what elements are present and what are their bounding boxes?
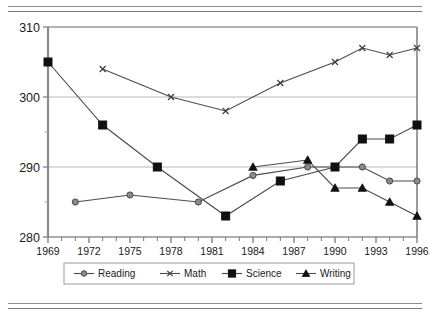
x-tick-label: 1993: [364, 245, 388, 257]
chart-container: 280290300310 196919721975197819811984198…: [0, 14, 430, 300]
x-axis-tick-labels: 1969197219751978198119841987199019931996: [36, 237, 429, 257]
legend-item-science[interactable]: Science: [222, 268, 282, 279]
data-point-marker: [44, 58, 52, 66]
data-point-marker: [99, 121, 107, 129]
series-line: [103, 48, 417, 111]
data-point-marker: [387, 178, 393, 184]
data-point-marker: [332, 59, 338, 65]
data-point-marker: [331, 163, 339, 171]
figure-page: 280290300310 196919721975197819811984198…: [0, 0, 430, 318]
data-point-marker: [222, 212, 230, 220]
chart-legend: ReadingMathScienceWriting: [64, 263, 354, 284]
series-math: [100, 45, 420, 114]
series-reading: [72, 164, 420, 205]
x-tick-label: 1981: [200, 245, 224, 257]
series-science: [44, 58, 421, 220]
top-divider-rule: [8, 6, 422, 12]
axes: [48, 27, 417, 237]
y-tick-label: 310: [19, 21, 40, 35]
data-point-marker: [277, 80, 283, 86]
data-point-marker: [195, 199, 201, 205]
data-point-marker: [153, 163, 161, 171]
bottom-divider-rule: [8, 303, 422, 309]
y-tick-label: 280: [19, 231, 40, 245]
data-point-marker: [414, 178, 420, 184]
series-line: [75, 167, 417, 202]
data-point-marker: [303, 156, 311, 164]
cropped-header-text: [255, 0, 425, 2]
legend-label: Science: [246, 268, 282, 279]
data-point-marker: [228, 270, 235, 277]
x-tick-label: 1990: [323, 245, 347, 257]
data-point-marker: [413, 212, 421, 220]
data-point-marker: [359, 164, 365, 170]
data-point-marker: [127, 192, 133, 198]
data-point-marker: [385, 198, 393, 206]
x-tick-label: 1972: [77, 245, 101, 257]
x-tick-label: 1987: [282, 245, 306, 257]
y-tick-label: 290: [19, 161, 40, 175]
x-tick-label: 1984: [241, 245, 265, 257]
legend-label: Writing: [320, 268, 351, 279]
data-point-marker: [72, 199, 78, 205]
x-tick-label: 1978: [159, 245, 183, 257]
data-point-marker: [386, 135, 394, 143]
line-chart: 280290300310 196919721975197819811984198…: [0, 14, 430, 300]
data-point-marker: [305, 164, 311, 170]
y-tick-label: 300: [19, 91, 40, 105]
data-point-marker: [358, 135, 366, 143]
data-point-marker: [250, 172, 256, 178]
legend-label: Math: [184, 268, 206, 279]
x-tick-label: 1996: [405, 245, 429, 257]
data-point-marker: [413, 121, 421, 129]
data-point-marker: [100, 66, 106, 72]
y-axis-tick-labels: 280290300310: [19, 21, 48, 245]
data-point-marker: [81, 271, 87, 277]
legend-label: Reading: [98, 268, 135, 279]
x-tick-label: 1969: [36, 245, 60, 257]
data-series-group: [44, 45, 421, 220]
x-tick-label: 1975: [118, 245, 142, 257]
data-point-marker: [276, 177, 284, 185]
